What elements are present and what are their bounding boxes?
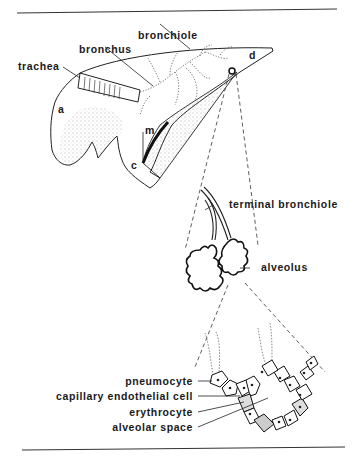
label-terminal-bronchiole: terminal bronchiole xyxy=(229,199,338,210)
label-alveolar-space: alveolar space xyxy=(112,422,193,433)
bottom-rule xyxy=(22,447,345,450)
trachea xyxy=(78,73,140,102)
medial-lobe xyxy=(143,72,237,178)
label-alveolus: alveolus xyxy=(261,262,308,273)
top-rule xyxy=(17,9,337,13)
label-lobe-c: c xyxy=(131,160,137,171)
label-lobe-m: m xyxy=(145,125,155,136)
label-pneumocyte: pneumocyte xyxy=(125,376,193,387)
alveolus-cluster xyxy=(186,239,247,291)
label-trachea: trachea xyxy=(18,61,60,72)
magnified-region-marker xyxy=(229,68,235,74)
label-bronchiole: bronchiole xyxy=(138,30,198,41)
lobe-a-shaded xyxy=(60,107,123,165)
alveolar-wall xyxy=(210,356,318,432)
label-capillary-endothelial-cell: capillary endothelial cell xyxy=(56,391,193,402)
label-erythrocyte: erythrocyte xyxy=(129,407,193,418)
label-bronchus: bronchus xyxy=(79,44,132,55)
label-lobe-d: d xyxy=(249,50,256,61)
terminal-bronchiole xyxy=(201,187,231,240)
label-lobe-a: a xyxy=(58,104,64,115)
bronchial-tree xyxy=(140,45,232,115)
